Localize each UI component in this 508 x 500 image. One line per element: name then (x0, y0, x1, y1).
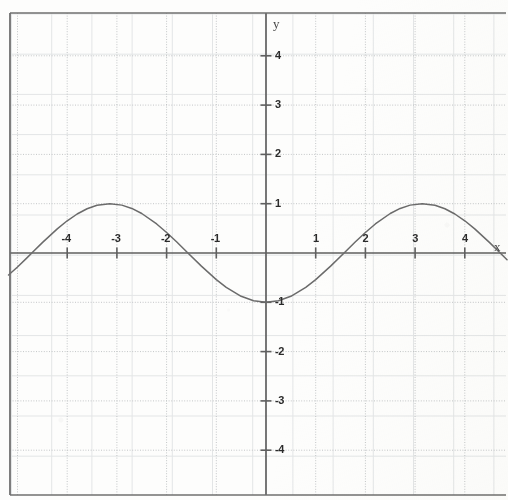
paper-background (10, 13, 506, 495)
x-axis-label: x (494, 240, 501, 253)
coordinate-plane-svg (0, 0, 508, 500)
y-tick-label-2: 2 (275, 148, 281, 159)
y-tick-label-neg4: -4 (275, 444, 284, 455)
x-tick-label-2: 2 (363, 233, 369, 244)
x-tick-label-neg2: -2 (161, 233, 170, 244)
graph-canvas: -4-3-2-11234-4-3-2-11234yx (0, 0, 508, 500)
y-tick-label-4: 4 (275, 50, 281, 61)
x-tick-label-neg4: -4 (62, 233, 71, 244)
y-tick-label-neg2: -2 (275, 346, 284, 357)
x-tick-label-3: 3 (412, 233, 418, 244)
y-tick-label-neg3: -3 (275, 395, 284, 406)
x-tick-label-neg1: -1 (211, 233, 220, 244)
y-axis-label: y (273, 17, 280, 30)
x-tick-label-neg3: -3 (111, 233, 120, 244)
y-tick-label-3: 3 (275, 99, 281, 110)
x-tick-label-1: 1 (313, 233, 319, 244)
y-tick-label-1: 1 (275, 198, 281, 209)
y-tick-label-neg1: -1 (275, 296, 284, 307)
x-tick-label-4: 4 (462, 233, 468, 244)
